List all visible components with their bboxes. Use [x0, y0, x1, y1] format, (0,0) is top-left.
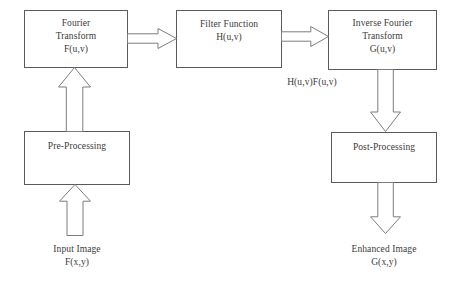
- diagram-canvas: Fourier Transform F(u,v)Filter Function …: [0, 0, 462, 285]
- arrow-preprocessing-to-fourier: [58, 67, 91, 132]
- filter-function-box: Filter Function H(u,v): [176, 10, 282, 68]
- inverse-fourier-transform-box: Inverse Fourier Transform G(u,v): [328, 10, 437, 70]
- inverse-fourier-transform-box-label: Inverse Fourier Transform G(u,v): [329, 17, 436, 56]
- arrow-inverse-to-postprocessing: [370, 69, 401, 132]
- fourier-transform-box-label: Fourier Transform F(u,v): [25, 17, 127, 56]
- arrow-fourier-to-filter: [127, 28, 177, 49]
- filter-function-box-label: Filter Function H(u,v): [177, 18, 281, 44]
- enhanced-image-label: Enhanced Image G(x,y): [331, 243, 437, 269]
- arrow-postprocessing-to-enhanced: [370, 182, 401, 234]
- pre-processing-box: Pre-Processing: [24, 131, 130, 185]
- post-processing-box: Post-Processing: [331, 132, 437, 183]
- arrow-filter-to-inverse: [281, 26, 329, 47]
- pre-processing-box-label: Pre-Processing: [25, 140, 129, 153]
- intermediate-signal-label: H(u,v)F(u,v): [262, 76, 362, 89]
- input-image-label: Input Image F(x,y): [24, 243, 130, 269]
- arrow-input-to-preprocessing: [59, 184, 91, 236]
- post-processing-box-label: Post-Processing: [332, 141, 436, 154]
- fourier-transform-box: Fourier Transform F(u,v): [24, 10, 128, 68]
